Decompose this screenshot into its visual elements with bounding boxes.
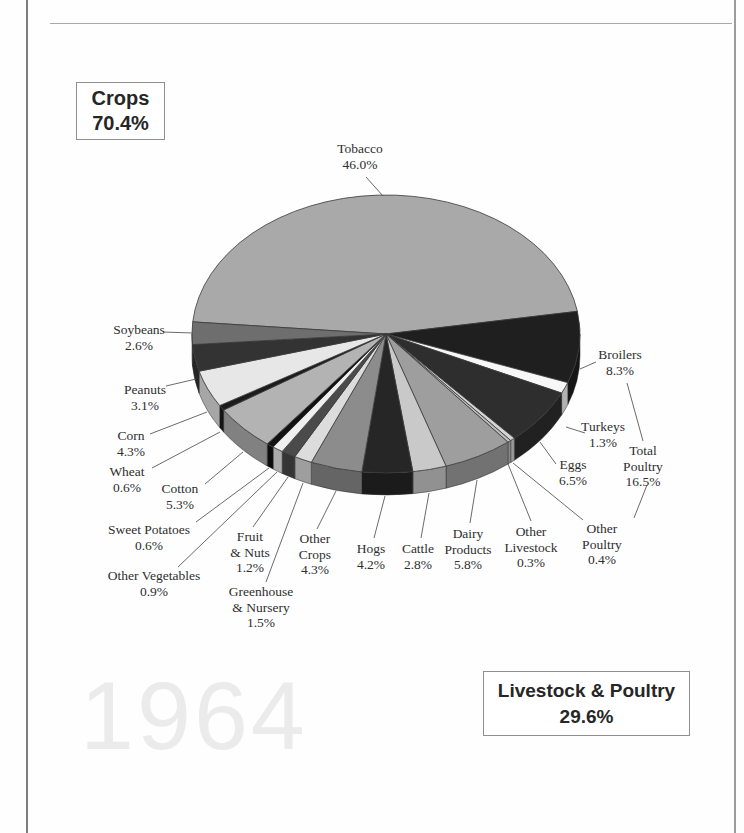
leader-line-corn bbox=[150, 412, 207, 434]
leader-line-broilers bbox=[580, 362, 596, 369]
leader-line-tobacco bbox=[366, 177, 383, 196]
leader-line-other-poultry bbox=[513, 463, 583, 520]
livestock-total-box: Livestock & Poultry 29.6% bbox=[483, 671, 690, 736]
leader-line-soybeans bbox=[163, 332, 193, 333]
leader-line-cattle bbox=[421, 493, 429, 538]
crops-total-box: Crops 70.4% bbox=[76, 82, 165, 140]
leader-line-other-livestock bbox=[508, 464, 531, 521]
page: 1964 Tobacco46.0%Broilers8.3%Turkeys1.3%… bbox=[0, 0, 744, 833]
crops-total-value: 70.4% bbox=[77, 111, 164, 136]
pie-side-other-livestock bbox=[508, 440, 511, 464]
leader-line-greenhouse-nursery bbox=[266, 483, 303, 582]
pie-side-sweet-potatoes bbox=[267, 444, 273, 469]
leader-line-cotton bbox=[205, 452, 243, 484]
leader-line-peanuts bbox=[166, 379, 196, 386]
pie-side-hogs bbox=[362, 472, 413, 495]
leader-line-eggs bbox=[540, 442, 556, 464]
leader-line-fruit-nuts bbox=[253, 477, 288, 527]
leader-line-hogs bbox=[374, 496, 385, 538]
leader-line-dairy-products bbox=[470, 480, 477, 523]
leader-line-other-vegetables bbox=[178, 472, 277, 567]
livestock-total-value: 29.6% bbox=[484, 704, 689, 730]
leader-line-total-poultry-2 bbox=[634, 485, 647, 518]
leader-line-total-poultry-1 bbox=[627, 383, 643, 441]
leader-line-sweet-potatoes bbox=[196, 468, 269, 522]
pie-side-other-poultry bbox=[511, 438, 515, 462]
leader-line-wheat bbox=[152, 432, 220, 468]
pie-slice-tobacco bbox=[193, 195, 578, 334]
leader-line-other-crops bbox=[317, 491, 336, 529]
livestock-total-label: Livestock & Poultry bbox=[484, 678, 689, 704]
leader-line-turkeys bbox=[566, 427, 585, 433]
crops-total-label: Crops bbox=[77, 86, 164, 111]
